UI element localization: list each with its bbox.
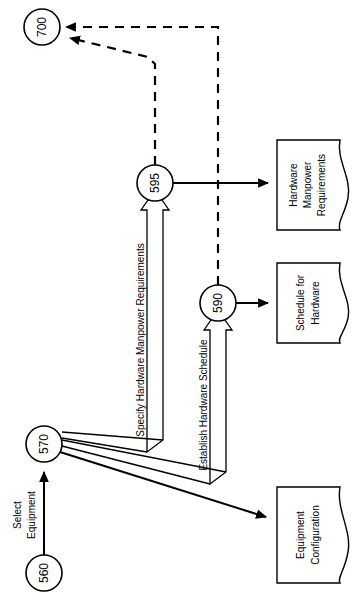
edge-label-establish-hardware-schedule: Establish Hardware Schedule	[198, 339, 209, 471]
node-700-label: 700	[35, 17, 49, 37]
svg-text:Requirements: Requirements	[316, 154, 327, 216]
edge-label-select-equipment-line2: Equipment	[26, 491, 37, 539]
edge-label-select-equipment-line1: Select	[12, 501, 23, 529]
svg-text:Schedule for: Schedule for	[295, 274, 306, 331]
svg-text:Equipment: Equipment	[295, 511, 306, 559]
edge-570-to-equipment-config-doc	[60, 452, 266, 517]
svg-text:Hardware: Hardware	[310, 281, 321, 325]
edge-label-specify-hardware-manpower-requirements: Specify Hardware Manpower Requirements	[135, 243, 146, 436]
node-560-label: 560	[37, 563, 51, 583]
svg-text:Hardware: Hardware	[288, 163, 299, 207]
node-570-label: 570	[37, 434, 51, 454]
edge-595-to-700	[70, 38, 155, 165]
svg-text:Manpower: Manpower	[302, 161, 313, 208]
edge-570-to-595-shape	[62, 190, 169, 452]
diagram-canvas: 700 595 590 570 560 Hardware Manpower Re…	[0, 0, 363, 601]
node-595-label: 595	[148, 173, 162, 193]
svg-text:Configuration: Configuration	[310, 505, 321, 564]
node-590-label: 590	[211, 293, 225, 313]
flowchart-diagram: 700 595 590 570 560 Hardware Manpower Re…	[0, 0, 363, 601]
